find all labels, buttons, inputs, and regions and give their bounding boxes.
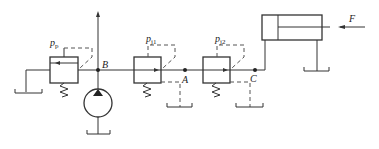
node-b-label: B xyxy=(102,59,108,70)
rv2-label-sub: j2 xyxy=(219,38,226,46)
relief-valve-label-sub: p xyxy=(55,42,59,50)
cylinder: F xyxy=(262,13,365,71)
svg-text:pj1: pj1 xyxy=(145,33,157,46)
spring-icon xyxy=(212,83,220,97)
force-label: F xyxy=(348,13,356,24)
relief-valve: pp xyxy=(15,37,92,97)
node-a-dot xyxy=(183,68,187,72)
tank-icon xyxy=(15,89,42,93)
spring-icon xyxy=(143,83,151,97)
rv1-drain-line xyxy=(161,82,180,107)
node-a-label: A xyxy=(181,74,189,85)
node-c-dot xyxy=(253,68,257,72)
node-b-dot xyxy=(96,68,100,72)
arrow-up-icon xyxy=(96,11,100,17)
spring-icon xyxy=(60,83,68,97)
rv1-label-sub: j1 xyxy=(150,38,157,46)
svg-text:pj2: pj2 xyxy=(214,33,226,46)
force-arrow-icon xyxy=(338,25,345,29)
pump-branch: B xyxy=(84,11,112,134)
rv2-drain-line xyxy=(230,82,250,107)
node-c-label: C xyxy=(250,73,257,84)
hydraulic-circuit-diagram: pp B pj1 A pj2 xyxy=(0,0,379,149)
svg-text:pp: pp xyxy=(49,37,59,50)
relief-valve-body xyxy=(50,57,78,83)
